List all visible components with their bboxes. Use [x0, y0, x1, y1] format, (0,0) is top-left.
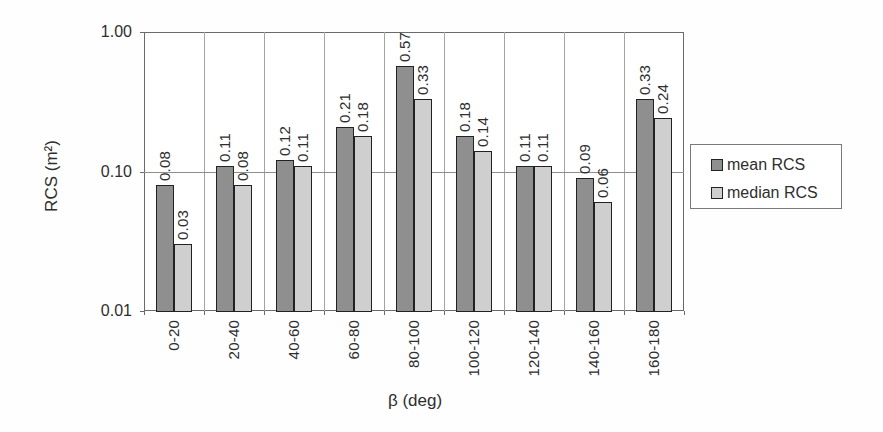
- bar-value-label-median-rcs: 0.14: [474, 117, 492, 147]
- bar-mean-rcs: [276, 160, 294, 312]
- bar-mean-rcs: [636, 99, 654, 312]
- x-tick-mark: [384, 311, 385, 315]
- bar-value-label-median-rcs: 0.03: [174, 210, 192, 240]
- x-tick-label: 0-20: [165, 320, 183, 351]
- bar-median-rcs: [354, 136, 372, 312]
- bar-value-label-mean-rcs: 0.33: [636, 65, 654, 95]
- bar-mean-rcs: [216, 166, 234, 312]
- y-axis-title: RCS (m²): [42, 140, 62, 212]
- y-tick-mark: [140, 32, 144, 33]
- x-tick-mark: [504, 311, 505, 315]
- bar-median-rcs: [294, 166, 312, 312]
- bar-median-rcs: [594, 202, 612, 312]
- bar-value-label-median-rcs: 0.11: [534, 133, 552, 162]
- bar-value-label-mean-rcs: 0.11: [516, 133, 534, 162]
- bar-mean-rcs: [156, 185, 174, 312]
- bar-value-label-median-rcs: 0.33: [414, 65, 432, 95]
- x-tick-mark: [564, 311, 565, 315]
- bar-median-rcs: [414, 99, 432, 312]
- x-tick-mark: [444, 311, 445, 315]
- bar-mean-rcs: [396, 66, 414, 312]
- bar-value-label-mean-rcs: 0.09: [576, 144, 594, 174]
- x-tick-mark: [264, 311, 265, 315]
- bar-value-label-mean-rcs: 0.57: [396, 32, 414, 62]
- x-tick-label: 40-60: [285, 320, 303, 359]
- bar-mean-rcs: [456, 136, 474, 312]
- y-tick-label: 1.00: [68, 23, 132, 41]
- x-tick-label: 80-100: [405, 320, 423, 368]
- x-tick-label: 120-140: [525, 320, 543, 376]
- x-tick-label: 20-40: [225, 320, 243, 359]
- x-tick-mark: [684, 311, 685, 315]
- rcs-bar-chart-figure: RCS (m²) β (deg) mean RCS median RCS 1.0…: [0, 0, 883, 432]
- bar-median-rcs: [654, 118, 672, 312]
- bar-mean-rcs: [336, 127, 354, 312]
- bar-value-label-mean-rcs: 0.11: [216, 133, 234, 162]
- legend-label-median-rcs: median RCS: [727, 184, 818, 202]
- bar-value-label-mean-rcs: 0.08: [156, 151, 174, 181]
- x-tick-mark: [324, 311, 325, 315]
- x-axis-title: β (deg): [388, 391, 442, 411]
- bar-median-rcs: [234, 185, 252, 312]
- bar-value-label-median-rcs: 0.11: [294, 133, 312, 162]
- x-tick-mark: [144, 311, 145, 315]
- x-tick-label: 140-160: [585, 320, 603, 376]
- x-tick-mark: [624, 311, 625, 315]
- bar-value-label-median-rcs: 0.08: [234, 151, 252, 181]
- bar-median-rcs: [534, 166, 552, 312]
- bar-median-rcs: [174, 244, 192, 312]
- bar-value-label-mean-rcs: 0.21: [336, 93, 354, 123]
- x-tick-label: 160-180: [645, 320, 663, 376]
- legend-item-mean-rcs: mean RCS: [711, 156, 805, 174]
- bar-value-label-median-rcs: 0.06: [594, 168, 612, 198]
- bar-median-rcs: [474, 151, 492, 312]
- bar-mean-rcs: [576, 178, 594, 312]
- x-tick-mark: [204, 311, 205, 315]
- y-tick-label: 0.10: [68, 163, 132, 181]
- bar-mean-rcs: [516, 166, 534, 312]
- mean-rcs-swatch: [711, 159, 723, 171]
- x-tick-label: 100-120: [465, 320, 483, 376]
- bar-value-label-mean-rcs: 0.12: [276, 126, 294, 156]
- legend: mean RCS median RCS: [690, 144, 842, 209]
- bar-value-label-median-rcs: 0.24: [654, 84, 672, 114]
- bar-value-label-median-rcs: 0.18: [354, 102, 372, 132]
- legend-item-median-rcs: median RCS: [711, 184, 818, 202]
- legend-label-mean-rcs: mean RCS: [727, 156, 805, 174]
- y-tick-mark: [140, 172, 144, 173]
- median-rcs-swatch: [711, 187, 723, 199]
- x-tick-label: 60-80: [345, 320, 363, 359]
- bar-value-label-mean-rcs: 0.18: [456, 102, 474, 132]
- y-tick-label: 0.01: [68, 302, 132, 320]
